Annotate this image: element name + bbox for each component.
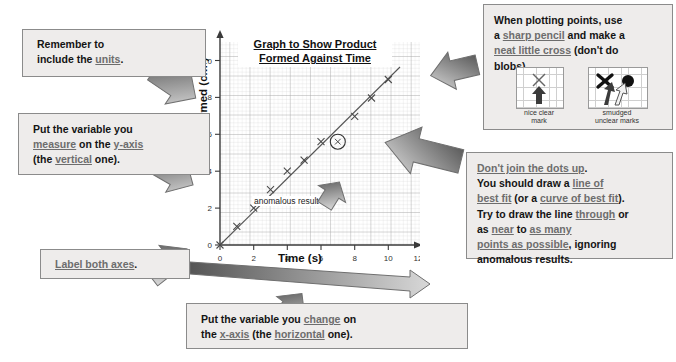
callout-label-axes-text: Label both axes. (55, 257, 189, 272)
text-line-0: Don't join the dots up. (477, 161, 672, 176)
callout-units-text: Remember toinclude the units. (37, 37, 205, 67)
grid (220, 42, 420, 245)
callout-change-x-axis: Put the variable you change onthe x-axis… (186, 303, 468, 349)
text-line-0: When plotting points, use (494, 13, 672, 28)
anomalous-result-label: anomalous result (252, 196, 321, 206)
text-line-3: Try to draw the line through or (477, 207, 672, 222)
svg-text:0: 0 (218, 254, 223, 263)
good-mark-svg (517, 68, 561, 106)
mark-examples: nice clearmark smudgedunclear marks (512, 67, 672, 127)
callout-bestfit-text: Don't join the dots up.You should draw a… (477, 161, 672, 268)
text-line-2: neat little cross (don't do (494, 43, 672, 58)
graph-title-line-1: Graph to Show Product (240, 37, 390, 51)
x-axis-label: Time (s) (278, 252, 322, 264)
nice-clear-mark-caption: nice clearmark (506, 109, 572, 125)
callout-plotting-points: When plotting points, usea sharp pencil … (483, 4, 673, 130)
svg-text:10: 10 (384, 254, 393, 263)
graph-figure: 0 2 4 6 8 10 12 0 2 4 6 (190, 18, 420, 270)
smudged-unclear-marks-caption: smudgedunclear marks (574, 109, 660, 125)
text-line-1: the x-axis (the horizontal one). (201, 327, 467, 342)
text-line-2: best fit (or a curve of best fit). (477, 191, 672, 206)
x-ticks (220, 245, 420, 250)
svg-text:12: 12 (414, 254, 420, 263)
callout-label-both-axes: Label both axes. (40, 249, 190, 279)
text-line-0: Label both axes. (55, 257, 189, 272)
svg-text:2: 2 (208, 204, 213, 213)
callout-xaxis-text: Put the variable you change onthe x-axis… (201, 312, 467, 342)
text-line-1: include the units. (37, 52, 205, 67)
text-line-2: (the vertical one). (33, 152, 209, 167)
arrow-plotting-to-graph (426, 46, 481, 94)
callout-measure-y-axis: Put the variable youmeasure on the y-axi… (18, 113, 210, 175)
text-line-4: as near to as many (477, 222, 672, 237)
graph-title-line-2: Formed Against Time (240, 51, 390, 65)
smudged-unclear-marks-diagram (588, 67, 648, 109)
text-line-0: Put the variable you change on (201, 312, 467, 327)
text-line-0: Remember to (37, 37, 205, 52)
nice-clear-mark-diagram (516, 67, 564, 109)
graph-title: Graph to Show Product Formed Against Tim… (238, 36, 392, 67)
svg-text:8: 8 (352, 254, 357, 263)
callout-line-of-best-fit: Don't join the dots up.You should draw a… (466, 152, 673, 259)
text-line-1: measure on the y-axis (33, 137, 209, 152)
callout-plotting-text: When plotting points, usea sharp pencil … (494, 13, 672, 74)
svg-text:2: 2 (251, 254, 256, 263)
text-line-0: Put the variable you (33, 122, 209, 137)
callout-measure-text: Put the variable youmeasure on the y-axi… (33, 122, 209, 167)
text-line-1: You should draw a line of (477, 176, 672, 191)
callout-remember-units: Remember toinclude the units. (22, 29, 206, 77)
svg-text:0: 0 (208, 241, 213, 250)
text-line-5: points as possible, ignoring (477, 237, 672, 252)
diagram-canvas: 0 2 4 6 8 10 12 0 2 4 6 (0, 0, 676, 362)
text-line-1: a sharp pencil and make a (494, 28, 672, 43)
y-ticks (215, 61, 220, 246)
bad-mark-svg (589, 68, 645, 106)
text-line-6: anomalous results. (477, 252, 672, 267)
y-axis-arrowhead (216, 30, 223, 38)
